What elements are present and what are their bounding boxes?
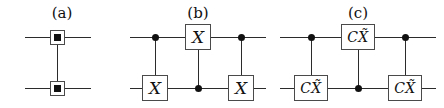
panel-a: (a) [0, 0, 124, 108]
panel-c: (c) CX̃ CX̃ CX̃ [272, 0, 444, 108]
panel-b-control-dot-3[interactable] [238, 34, 245, 41]
panel-a-swap-marker-bottom[interactable] [50, 81, 65, 96]
panel-c-label: (c) [272, 4, 444, 22]
panel-b-control-dot-1[interactable] [152, 34, 159, 41]
panel-b-control-dot-2[interactable] [195, 85, 202, 92]
panel-a-swap-marker-top[interactable] [50, 30, 65, 45]
panel-b-label: (b) [124, 4, 272, 22]
panel-c-control-dot-2[interactable] [355, 85, 362, 92]
panel-c-control-dot-1[interactable] [308, 34, 315, 41]
filled-square-icon [54, 34, 61, 41]
panel-c-gate-cx-3[interactable]: CX̃ [388, 75, 422, 101]
panel-b-gate-x-3[interactable]: X [228, 75, 254, 101]
panel-b: (b) X X X [124, 0, 272, 108]
panel-c-control-dot-3[interactable] [402, 34, 409, 41]
filled-square-icon [54, 85, 61, 92]
panel-b-gate-x-1[interactable]: X [142, 75, 168, 101]
panel-b-gate-x-2[interactable]: X [185, 24, 211, 50]
panel-c-gate-cx-2[interactable]: CX̃ [341, 24, 375, 50]
circuit-figure: (a) (b) X X X [0, 0, 444, 108]
panel-a-label: (a) [0, 4, 124, 22]
panel-c-gate-cx-1[interactable]: CX̃ [294, 75, 328, 101]
